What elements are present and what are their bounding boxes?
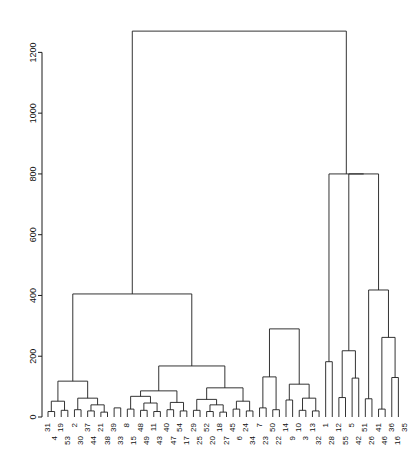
dendrogram-link xyxy=(289,384,309,400)
y-axis-tick-label: 1200 xyxy=(28,42,38,62)
leaf-label: 25 xyxy=(195,435,204,444)
leaf-label: 35 xyxy=(400,422,409,431)
dendrogram-link xyxy=(48,412,55,417)
leaf-label: 13 xyxy=(308,422,317,431)
leaf-label: 24 xyxy=(241,422,250,431)
dendrogram-link xyxy=(339,398,346,417)
leaf-label: 5 xyxy=(347,422,356,427)
y-axis-tick-label: 600 xyxy=(28,227,38,242)
leaf-label: 39 xyxy=(109,422,118,431)
leaf-label: 43 xyxy=(155,435,164,444)
leaf-label: 22 xyxy=(274,435,283,444)
leaf-label: 47 xyxy=(169,435,178,444)
leaf-label: 42 xyxy=(354,435,363,444)
dendrogram-link xyxy=(132,31,346,294)
leaf-label: 49 xyxy=(142,435,151,444)
leaf-label: 3 xyxy=(301,435,310,440)
leaf-label: 40 xyxy=(162,422,171,431)
dendrogram-link xyxy=(349,174,379,351)
dendrogram-link xyxy=(180,411,187,417)
dendrogram-link xyxy=(312,411,319,417)
leaf-label: 41 xyxy=(374,422,383,431)
dendrogram-link xyxy=(273,410,280,417)
dendrogram-link xyxy=(392,378,399,418)
dendrogram-link xyxy=(78,398,98,410)
leaf-label: 9 xyxy=(288,435,297,440)
dendrogram-link xyxy=(286,400,293,417)
dendrogram-link xyxy=(141,410,148,417)
dendrogram-link xyxy=(365,399,372,417)
dendrogram-link xyxy=(167,410,174,417)
leaf-label: 54 xyxy=(175,422,184,431)
leaf-label: 31 xyxy=(43,422,52,431)
leaf-label: 34 xyxy=(248,435,257,444)
y-axis-tick-label: 800 xyxy=(28,166,38,181)
dendrogram-plot: 020040060080010001200 314195323037442138… xyxy=(0,0,412,472)
dendrogram-link xyxy=(329,174,364,362)
leaf-label: 37 xyxy=(83,422,92,431)
dendrogram-link xyxy=(88,411,95,417)
leaf-label: 19 xyxy=(56,422,65,431)
dendrogram-link xyxy=(127,409,134,417)
dendrogram-link xyxy=(73,294,192,381)
leaf-label: 20 xyxy=(208,435,217,444)
leaf-label: 21 xyxy=(96,422,105,431)
dendrogram-link xyxy=(379,409,386,417)
leaf-label: 33 xyxy=(116,435,125,444)
leaf-label: 18 xyxy=(215,422,224,431)
leaf-label: 30 xyxy=(76,435,85,444)
dendrogram-link xyxy=(207,412,214,417)
y-axis-tick-label: 0 xyxy=(28,414,38,419)
leaf-label: 51 xyxy=(360,422,369,431)
y-axis: 020040060080010001200 xyxy=(28,42,42,419)
dendrogram-svg: 020040060080010001200 314195323037442138… xyxy=(0,0,412,472)
leaf-label: 55 xyxy=(341,435,350,444)
dendrogram-link xyxy=(159,366,225,391)
leaf-label: 27 xyxy=(222,435,231,444)
leaf-label: 28 xyxy=(327,435,336,444)
y-axis-tick-label: 200 xyxy=(28,349,38,364)
dendrogram-links xyxy=(48,31,398,417)
leaf-label: 15 xyxy=(129,435,138,444)
dendrogram-link xyxy=(210,405,223,412)
leaf-label: 7 xyxy=(255,422,264,427)
dendrogram-link xyxy=(74,410,81,417)
dendrogram-link xyxy=(220,412,227,417)
leaf-label: 17 xyxy=(182,435,191,444)
dendrogram-link xyxy=(260,408,267,417)
leaf-label: 16 xyxy=(393,435,402,444)
leaf-label: 23 xyxy=(261,435,270,444)
leaf-label: 26 xyxy=(367,435,376,444)
dendrogram-link xyxy=(303,398,316,411)
dendrogram-link xyxy=(246,411,253,417)
dendrogram-link xyxy=(269,329,299,384)
leaf-label: 44 xyxy=(89,435,98,444)
dendrogram-link xyxy=(369,290,389,399)
leaf-label: 11 xyxy=(149,422,158,431)
leaf-label: 10 xyxy=(294,422,303,431)
leaf-label: 32 xyxy=(314,435,323,444)
dendrogram-link xyxy=(114,408,121,417)
dendrogram-link xyxy=(326,362,333,417)
leaf-label: 48 xyxy=(136,422,145,431)
dendrogram-link xyxy=(154,412,161,417)
leaf-label: 12 xyxy=(334,422,343,431)
dendrogram-link xyxy=(382,337,395,409)
leaf-label: 38 xyxy=(103,435,112,444)
leaf-label: 36 xyxy=(387,422,396,431)
y-axis-tick-label: 1000 xyxy=(28,103,38,123)
leaf-label: 8 xyxy=(122,422,131,427)
dendrogram-link xyxy=(101,412,108,417)
leaf-label: 6 xyxy=(235,435,244,440)
leaf-label: 14 xyxy=(281,422,290,431)
dendrogram-link xyxy=(233,409,240,417)
leaf-label: 2 xyxy=(70,422,79,427)
dendrogram-link xyxy=(342,351,355,398)
dendrogram-link xyxy=(263,377,276,410)
leaf-labels: 3141953230374421383933815484911434047541… xyxy=(43,422,409,444)
dendrogram-link xyxy=(61,410,68,417)
dendrogram-link xyxy=(352,378,359,417)
leaf-label: 46 xyxy=(380,435,389,444)
y-axis-tick-label: 400 xyxy=(28,288,38,303)
leaf-label: 1 xyxy=(321,422,330,427)
